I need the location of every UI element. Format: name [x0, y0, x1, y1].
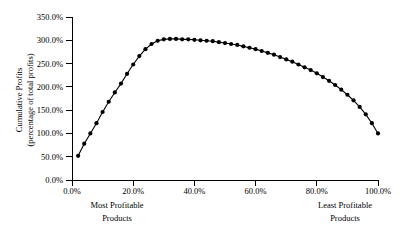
data-point: [327, 79, 331, 83]
x-tick-label-100: 100.0%: [365, 186, 391, 196]
data-point: [180, 37, 184, 41]
data-point: [113, 90, 117, 94]
y-axis-ticks: [66, 17, 72, 180]
x-tick-label-80: 80.0%: [306, 186, 328, 196]
data-point: [156, 39, 160, 43]
data-series-markers: [76, 37, 380, 158]
data-point: [162, 37, 166, 41]
data-point: [376, 131, 380, 135]
x-axis-caption-right: Least Profitable Products: [318, 200, 372, 223]
data-point: [217, 40, 221, 44]
x-tick-label-60: 60.0%: [245, 186, 267, 196]
data-point: [333, 83, 337, 87]
x-tick-label-40: 40.0%: [183, 186, 205, 196]
y-axis-title-line1: Cumulative Profits: [14, 68, 24, 132]
data-point: [254, 47, 258, 51]
x-tick-label-20: 20.0%: [122, 186, 144, 196]
caption-left-line1: Most Profitable: [90, 200, 143, 210]
y-tick-label-150: 150.0%: [37, 105, 63, 115]
x-axis: 0.0% 20.0% 40.0% 60.0% 80.0% 100.0%: [63, 180, 391, 196]
data-point: [223, 41, 227, 45]
data-point: [241, 44, 245, 48]
data-point: [192, 38, 196, 42]
data-point: [94, 121, 98, 125]
y-tick-label-100: 100.0%: [37, 128, 63, 138]
data-point: [345, 93, 349, 97]
y-tick-label-0: 0.0%: [45, 175, 63, 185]
data-point: [76, 154, 80, 158]
y-tick-label-350: 350.0%: [37, 12, 63, 22]
y-axis-tick-labels: 0.0% 50.0% 100.0% 150.0% 200.0% 250.0% 3…: [37, 12, 63, 185]
data-point: [198, 38, 202, 42]
data-point: [131, 62, 135, 66]
y-axis-title-line2: (percentage of total profits): [25, 53, 35, 146]
data-point: [125, 72, 129, 76]
data-point: [290, 60, 294, 64]
y-tick-label-50: 50.0%: [41, 152, 63, 162]
data-point: [137, 54, 141, 58]
data-point: [149, 42, 153, 46]
data-point: [284, 57, 288, 61]
data-point: [168, 37, 172, 41]
x-axis-tick-labels: 0.0% 20.0% 40.0% 60.0% 80.0% 100.0%: [63, 186, 391, 196]
data-point: [186, 37, 190, 41]
data-point: [229, 42, 233, 46]
data-point: [358, 105, 362, 109]
caption-left-line2: Products: [102, 213, 132, 223]
data-point: [309, 68, 313, 72]
data-point: [296, 62, 300, 66]
y-tick-label-200: 200.0%: [37, 82, 63, 92]
data-point: [205, 39, 209, 43]
data-point: [272, 53, 276, 57]
x-tick-label-0: 0.0%: [63, 186, 81, 196]
y-tick-label-300: 300.0%: [37, 35, 63, 45]
y-tick-label-250: 250.0%: [37, 59, 63, 69]
data-point: [174, 37, 178, 41]
data-point: [260, 49, 264, 53]
caption-right-line2: Products: [330, 213, 360, 223]
data-point: [339, 88, 343, 92]
x-axis-caption-left: Most Profitable Products: [90, 200, 143, 223]
x-axis-ticks: [72, 180, 378, 186]
data-point: [101, 110, 105, 114]
data-point: [107, 100, 111, 104]
data-point: [351, 98, 355, 102]
plot-area: [76, 37, 380, 158]
y-axis: 0.0% 50.0% 100.0% 150.0% 200.0% 250.0% 3…: [37, 12, 72, 185]
data-point: [370, 121, 374, 125]
caption-right-line1: Least Profitable: [318, 200, 372, 210]
data-series-line: [78, 39, 378, 156]
y-axis-title: Cumulative Profits (percentage of total …: [14, 53, 35, 146]
data-point: [315, 71, 319, 75]
data-point: [364, 112, 368, 116]
data-point: [321, 75, 325, 79]
data-point: [119, 82, 123, 86]
whale-curve-chart: Cumulative Profits (percentage of total …: [0, 0, 406, 233]
data-point: [278, 55, 282, 59]
data-point: [211, 39, 215, 43]
data-point: [266, 51, 270, 55]
data-point: [235, 43, 239, 47]
data-point: [143, 47, 147, 51]
data-point: [88, 131, 92, 135]
data-point: [302, 65, 306, 69]
data-point: [247, 46, 251, 50]
data-point: [82, 142, 86, 146]
chart-container: Cumulative Profits (percentage of total …: [0, 0, 406, 233]
